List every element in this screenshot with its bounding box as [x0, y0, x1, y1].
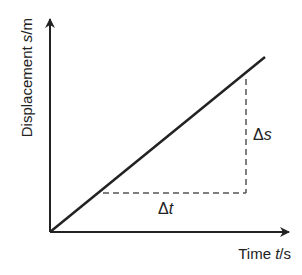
delta-t-label: Δt	[158, 200, 174, 217]
displacement-time-diagram: Δs Δt Time t/s Displacement s/m	[0, 0, 302, 275]
delta-s-label: Δs	[253, 126, 272, 143]
y-axis-label: Displacement s/m	[18, 18, 35, 137]
x-axis-label: Time t/s	[238, 245, 291, 262]
